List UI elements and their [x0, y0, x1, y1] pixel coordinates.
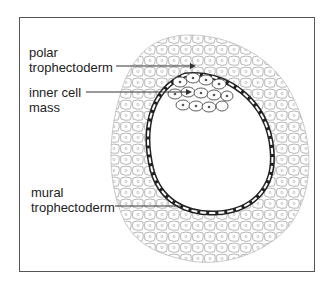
- label-line: inner cell: [29, 85, 81, 100]
- label-inner-cell-mass: inner cell mass: [29, 85, 81, 115]
- blastocyst-illustration: [0, 0, 332, 283]
- label-polar-trophectoderm: polar trophectoderm: [29, 45, 113, 75]
- label-line: trophectoderm: [31, 200, 115, 215]
- label-line: mass: [29, 100, 81, 115]
- label-line: trophectoderm: [29, 60, 113, 75]
- label-line: mural: [31, 185, 115, 200]
- label-mural-trophectoderm: mural trophectoderm: [31, 185, 115, 215]
- label-line: polar: [29, 45, 113, 60]
